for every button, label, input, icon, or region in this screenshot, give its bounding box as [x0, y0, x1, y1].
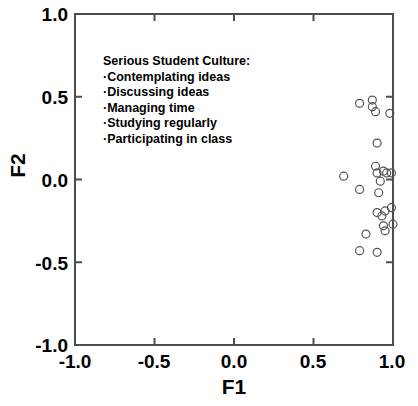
plot-canvas [0, 0, 418, 406]
data-point-marker [356, 99, 364, 107]
data-point-marker [387, 169, 395, 177]
data-point-marker [356, 247, 364, 255]
scatter-plot-figure: F2 1.0 0.5 0.0 -0.5 -1.0 -1.0 -0.5 0.0 0… [0, 0, 418, 406]
data-point-marker [373, 248, 381, 256]
data-point-marker [376, 177, 384, 185]
data-point-marker [362, 230, 370, 238]
data-points [340, 96, 397, 256]
data-point-marker [381, 227, 389, 235]
data-point-marker [356, 185, 364, 193]
data-point-marker [340, 172, 348, 180]
data-point-marker [375, 189, 383, 197]
data-point-marker [379, 222, 387, 230]
data-point-marker [373, 139, 381, 147]
